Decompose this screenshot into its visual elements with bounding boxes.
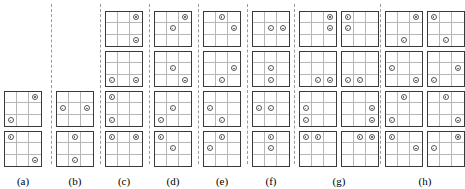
grid-cell-r0-c2: [130, 92, 142, 103]
grid-cell-r1-c0: [386, 103, 398, 114]
grid-cell-r1-c0: [342, 63, 354, 74]
grid-cell-r1-c1: [118, 103, 130, 114]
grid-cell-r0-c1: [265, 12, 277, 23]
grid-cell-r2-c0: [204, 155, 216, 166]
grid-cell-r2-c0: [155, 75, 167, 86]
grid-cell-r0-c2: [130, 52, 142, 63]
grid-cell-r2-c2: [81, 155, 93, 166]
small-circle-marker-icon: [158, 134, 164, 140]
grid-cell-r0-c1: [398, 12, 410, 23]
grid-cell-r1-c1: [265, 63, 277, 74]
grid-p7-c0-g0: [385, 131, 423, 167]
grid-cell-r2-c0: [300, 115, 312, 126]
grid-cell-r2-c1: [440, 75, 452, 86]
grid-cell-r2-c0: [300, 75, 312, 86]
small-circle-marker-icon: [431, 145, 437, 151]
grid-p7-c0-g2: [385, 51, 423, 87]
grid-cell-r2-c2: [277, 75, 289, 86]
grid-cell-r0-c0: [300, 92, 312, 103]
grid-cell-r0-c2: [324, 52, 336, 63]
grid-cell-r2-c0: [428, 115, 440, 126]
grid-cell-r0-c1: [354, 52, 366, 63]
grid-cell-r1-c2: [228, 23, 240, 34]
grid-cell-r0-c1: [440, 92, 452, 103]
grid-cell-r1-c2: [81, 143, 93, 154]
grid-cell-r2-c1: [440, 115, 452, 126]
grid-cell-r2-c1: [167, 35, 179, 46]
grid-cell-r1-c2: [366, 23, 378, 34]
grid-cell-r2-c0: [204, 35, 216, 46]
grid-p7-c0-g1: [385, 91, 423, 127]
grid-cell-r2-c2: [366, 35, 378, 46]
grid-cell-r1-c1: [118, 23, 130, 34]
grid-cell-r2-c1: [398, 155, 410, 166]
grid-cell-r0-c1: [398, 132, 410, 143]
grid-cell-r2-c0: [342, 155, 354, 166]
grid-cell-r2-c0: [428, 35, 440, 46]
grid-cell-r1-c1: [118, 63, 130, 74]
grid-cell-r1-c0: [253, 63, 265, 74]
grid-cell-r2-c1: [354, 35, 366, 46]
grid-cell-r1-c0: [204, 63, 216, 74]
grid-cell-r1-c0: [428, 23, 440, 34]
grid-cell-r0-c0: [155, 92, 167, 103]
grid-cell-r0-c1: [312, 12, 324, 23]
grid-cell-r2-c2: [29, 155, 41, 166]
small-circle-marker-icon: [345, 77, 351, 83]
grid-cell-r2-c0: [57, 155, 69, 166]
grid-p7-c1-g3: [427, 11, 465, 47]
grid-cell-r0-c1: [167, 12, 179, 23]
grid-cell-r0-c2: [452, 92, 464, 103]
grid-cell-r0-c2: [410, 52, 422, 63]
grid-cell-r2-c1: [312, 115, 324, 126]
small-circle-marker-icon: [443, 37, 449, 43]
small-circle-marker-icon: [369, 117, 375, 123]
panel-divider-3: [198, 4, 199, 164]
grid-cell-r1-c0: [300, 103, 312, 114]
small-circle-marker-icon: [431, 14, 437, 20]
panel-divider-0: [51, 4, 52, 164]
grid-p7-c1-g2: [427, 51, 465, 87]
grid-cell-r2-c0: [5, 155, 17, 166]
grid-cell-r0-c2: [81, 132, 93, 143]
small-circle-marker-icon: [231, 65, 237, 71]
grid-cell-r0-c0: [428, 12, 440, 23]
grid-cell-r0-c0: [5, 132, 17, 143]
grid-p6-c1-g3: [341, 11, 379, 47]
panel-caption-d: (d): [154, 175, 192, 187]
grid-cell-r0-c0: [342, 52, 354, 63]
grid-cell-r2-c0: [155, 35, 167, 46]
grid-p5-c0-g3: [252, 11, 290, 47]
grid-cell-r2-c2: [179, 115, 191, 126]
small-circle-marker-icon: [170, 105, 176, 111]
grid-cell-r2-c1: [265, 75, 277, 86]
grid-cell-r2-c0: [5, 115, 17, 126]
grid-cell-r1-c2: [228, 63, 240, 74]
small-circle-marker-icon: [455, 117, 461, 123]
grid-cell-r0-c0: [342, 12, 354, 23]
panel-divider-1: [100, 4, 101, 164]
grid-stack-0: [56, 91, 94, 167]
grid-cell-r1-c1: [398, 143, 410, 154]
grid-cell-r0-c0: [204, 132, 216, 143]
grid-cell-r1-c2: [179, 63, 191, 74]
grid-cell-r1-c1: [167, 143, 179, 154]
grid-cell-r0-c0: [106, 132, 118, 143]
grid-cell-r2-c1: [17, 115, 29, 126]
grid-cell-r2-c2: [277, 155, 289, 166]
grid-cell-r1-c2: [81, 103, 93, 114]
small-circle-marker-icon: [109, 134, 115, 140]
grid-cell-r1-c2: [410, 63, 422, 74]
small-circle-marker-icon: [268, 134, 274, 140]
grid-cell-r1-c0: [386, 143, 398, 154]
grid-cell-r2-c1: [354, 75, 366, 86]
grid-cell-r2-c1: [312, 155, 324, 166]
small-circle-marker-icon: [84, 105, 90, 111]
grid-cell-r1-c1: [216, 103, 228, 114]
grid-cell-r1-c2: [130, 143, 142, 154]
grid-cell-r1-c0: [57, 143, 69, 154]
grid-cell-r0-c1: [216, 132, 228, 143]
grid-cell-r0-c2: [228, 132, 240, 143]
grid-cell-r2-c2: [324, 35, 336, 46]
grid-cell-r1-c1: [312, 23, 324, 34]
